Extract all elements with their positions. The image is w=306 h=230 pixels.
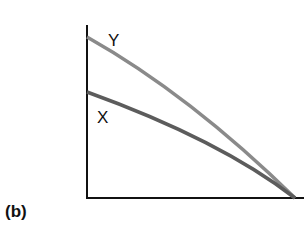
label-x: X [97, 108, 108, 128]
diagram-plot [0, 0, 306, 230]
panel-label: (b) [5, 202, 27, 222]
label-y: Y [108, 31, 119, 51]
